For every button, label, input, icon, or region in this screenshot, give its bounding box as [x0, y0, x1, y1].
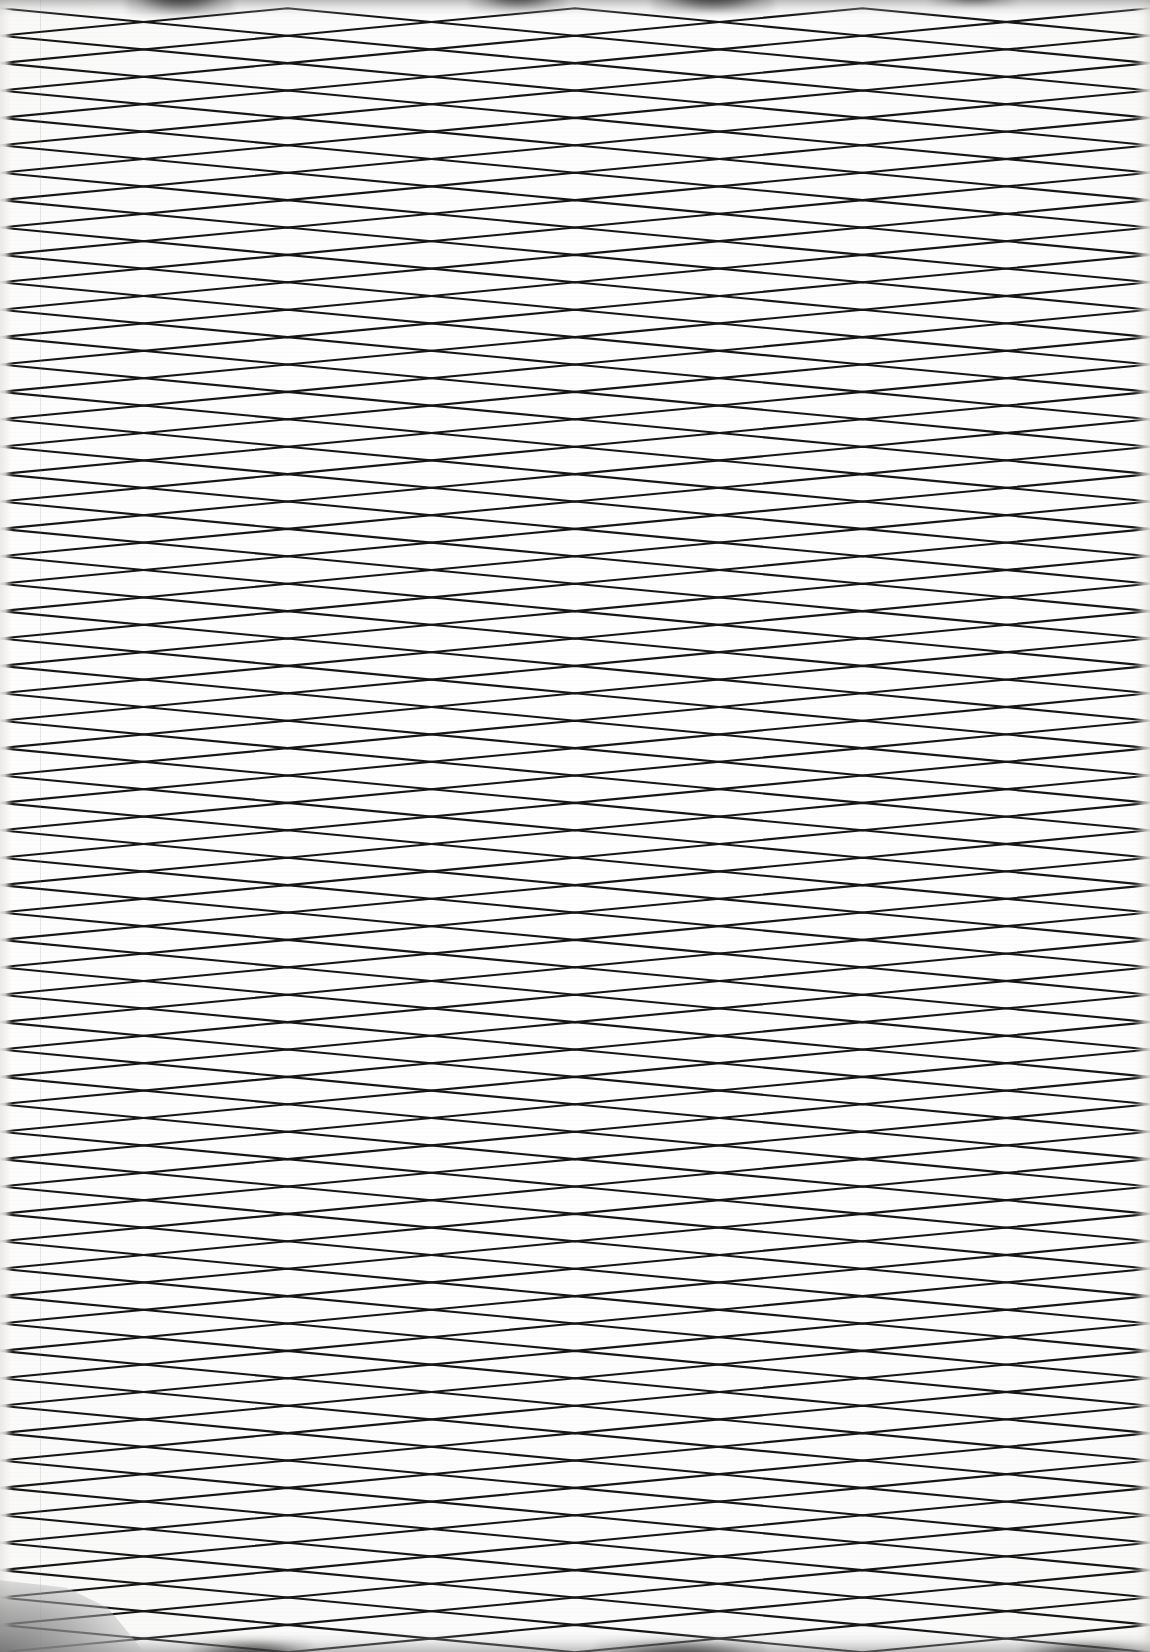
top-smudge — [126, 0, 234, 15]
lattice-stroke — [0, 474, 1150, 501]
lattice-stroke — [0, 447, 1150, 474]
lattice-stroke — [0, 365, 1150, 392]
lattice-stroke — [0, 556, 1150, 583]
lattice-stroke — [0, 1378, 1150, 1405]
lattice-stroke — [0, 310, 1150, 337]
lattice-stroke — [0, 1351, 1150, 1378]
lattice-stroke — [0, 1433, 1150, 1460]
lattice-stroke — [0, 858, 1150, 885]
lattice-stroke — [0, 1241, 1150, 1268]
lattice-stroke — [0, 1214, 1150, 1241]
lattice-stroke — [0, 118, 1150, 145]
lattice-stroke — [0, 255, 1150, 282]
lattice-stroke — [0, 803, 1150, 830]
left-page-edge — [0, 0, 13, 1652]
lattice-stroke — [0, 419, 1150, 446]
lattice-stroke — [0, 885, 1150, 912]
lattice-stroke — [0, 36, 1150, 63]
lattice-stroke — [0, 1543, 1150, 1570]
lattice-stroke — [0, 611, 1150, 638]
lattice-stroke — [0, 1598, 1150, 1625]
lattice-stroke — [0, 693, 1150, 720]
lattice-stroke — [0, 282, 1150, 309]
lattice-stroke — [0, 721, 1150, 748]
lattice-stroke — [0, 584, 1150, 611]
lattice-stroke — [0, 1515, 1150, 1542]
lattice-stroke — [0, 1515, 1150, 1542]
lattice-stroke — [0, 1296, 1150, 1323]
lattice-stroke — [0, 556, 1150, 583]
lattice-stroke — [0, 639, 1150, 666]
lattice-stroke — [0, 63, 1150, 90]
lattice-stroke — [0, 502, 1150, 529]
lattice-stroke — [0, 145, 1150, 172]
lattice-stroke — [0, 1324, 1150, 1351]
scanned-page: Continuous serpentine (boustrophedon) pl… — [0, 0, 1150, 1652]
lattice-stroke — [0, 1269, 1150, 1296]
zigzag-lattice-drawing — [0, 0, 1150, 1652]
bottom-smudge — [192, 1640, 312, 1652]
lattice-stroke — [0, 200, 1150, 227]
lattice-stroke — [0, 1296, 1150, 1323]
lattice-stroke — [0, 1022, 1150, 1049]
lattice-stroke — [0, 1543, 1150, 1570]
lattice-stroke — [0, 885, 1150, 912]
lattice-stroke — [0, 173, 1150, 200]
lattice-stroke — [0, 63, 1150, 90]
lattice-stroke — [0, 529, 1150, 556]
lattice-stroke — [0, 1351, 1150, 1378]
lattice-stroke — [0, 1433, 1150, 1460]
lattice-stroke — [0, 1214, 1150, 1241]
top-smudge — [470, 0, 566, 11]
lattice-stroke — [0, 145, 1150, 172]
lattice-stroke — [0, 693, 1150, 720]
lattice-stroke — [0, 282, 1150, 309]
lattice-stroke — [0, 1159, 1150, 1186]
lattice-stroke — [0, 255, 1150, 282]
lattice-stroke — [0, 639, 1150, 666]
lattice-stroke — [0, 748, 1150, 775]
bottom-smudge — [1022, 1642, 1146, 1652]
lattice-stroke — [0, 1077, 1150, 1104]
lattice-stroke — [0, 1570, 1150, 1597]
lattice-stroke — [0, 502, 1150, 529]
lattice-stroke — [0, 1269, 1150, 1296]
lattice-stroke — [0, 36, 1150, 63]
lattice-stroke — [0, 1488, 1150, 1515]
lattice-stroke — [0, 803, 1150, 830]
lattice-stroke — [0, 173, 1150, 200]
lattice-stroke — [0, 776, 1150, 803]
lattice-stroke — [0, 1187, 1150, 1214]
lattice-stroke — [0, 940, 1150, 967]
lattice-stroke — [0, 1104, 1150, 1131]
lattice-stroke — [0, 748, 1150, 775]
lattice-stroke — [0, 611, 1150, 638]
lattice-stroke — [0, 940, 1150, 967]
lattice-stroke — [0, 1050, 1150, 1077]
lattice-stroke — [0, 474, 1150, 501]
lattice-stroke — [0, 995, 1150, 1022]
lattice-stroke — [0, 1050, 1150, 1077]
lattice-stroke — [0, 1461, 1150, 1488]
lattice-stroke — [0, 337, 1150, 364]
lattice-stroke — [0, 1406, 1150, 1433]
lattice-stroke — [0, 91, 1150, 118]
lattice-stroke — [0, 858, 1150, 885]
lattice-stroke — [0, 1077, 1150, 1104]
lattice-stroke — [0, 721, 1150, 748]
lattice-stroke — [0, 1570, 1150, 1597]
lattice-stroke — [0, 967, 1150, 994]
margin-rule-line — [40, 0, 41, 1652]
bottom-smudge — [596, 1640, 766, 1652]
lattice-stroke — [0, 1241, 1150, 1268]
bottom-page-edge-shadow — [0, 1632, 1150, 1652]
lattice-stroke — [0, 913, 1150, 940]
lattice-svg — [0, 0, 1150, 1652]
lattice-stroke — [0, 118, 1150, 145]
lattice-stroke — [0, 666, 1150, 693]
lattice-stroke — [0, 776, 1150, 803]
right-page-edge — [1134, 0, 1150, 1652]
lattice-stroke — [0, 392, 1150, 419]
lattice-stroke — [0, 1132, 1150, 1159]
lattice-stroke — [0, 228, 1150, 255]
